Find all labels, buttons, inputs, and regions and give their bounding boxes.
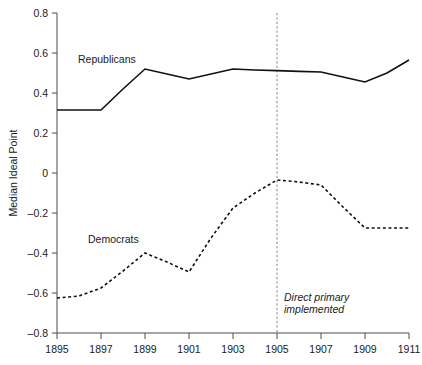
x-axis-ticks: 1895 1897 1899 1901 1903 1905 1907 1909 … bbox=[45, 333, 420, 355]
x-tick-label: 1907 bbox=[309, 343, 333, 355]
x-tick-label: 1901 bbox=[177, 343, 201, 355]
x-tick-label: 1899 bbox=[133, 343, 157, 355]
y-tick-label: 0.8 bbox=[33, 7, 48, 19]
x-tick-label: 1897 bbox=[89, 343, 113, 355]
line-chart-canvas: Median Ideal Point 0.8 0.6 0.4 0.2 0 –0.… bbox=[0, 0, 422, 365]
y-tick-label: –0.8 bbox=[28, 327, 49, 339]
series-line-republicans bbox=[57, 60, 409, 110]
y-tick-label: 0 bbox=[42, 167, 48, 179]
y-tick-label: 0.2 bbox=[33, 127, 48, 139]
series-label-republicans: Republicans bbox=[78, 53, 136, 65]
y-tick-label: 0.4 bbox=[33, 87, 48, 99]
annotation-text-line2: implemented bbox=[284, 303, 345, 315]
y-tick-label: –0.2 bbox=[28, 207, 49, 219]
y-tick-label: 0.6 bbox=[33, 47, 48, 59]
x-tick-label: 1911 bbox=[398, 343, 421, 355]
chart-figure: Median Ideal Point 0.8 0.6 0.4 0.2 0 –0.… bbox=[0, 0, 422, 365]
x-tick-label: 1903 bbox=[221, 343, 245, 355]
series-label-democrats: Democrats bbox=[88, 233, 139, 245]
x-tick-label: 1909 bbox=[353, 343, 377, 355]
y-tick-label: –0.6 bbox=[28, 287, 49, 299]
x-tick-label: 1905 bbox=[265, 343, 289, 355]
annotation-text-line1: Direct primary bbox=[284, 291, 350, 303]
y-axis-ticks: 0.8 0.6 0.4 0.2 0 –0.2 –0.4 –0.6 –0.8 bbox=[28, 7, 57, 339]
y-tick-label: –0.4 bbox=[28, 247, 49, 259]
y-axis-title: Median Ideal Point bbox=[7, 129, 19, 216]
x-tick-label: 1895 bbox=[45, 343, 69, 355]
